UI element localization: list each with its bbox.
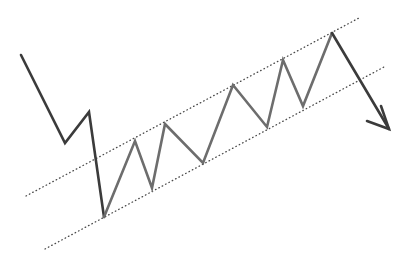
price-path-group <box>21 33 389 217</box>
breakdown-arrow-shaft <box>332 33 389 129</box>
chart-canvas <box>0 0 410 265</box>
price-chart-svg <box>0 0 410 265</box>
price-zigzag-wedge <box>104 33 332 217</box>
trendline-group <box>26 18 384 249</box>
